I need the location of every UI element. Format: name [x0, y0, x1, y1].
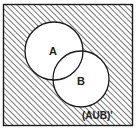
- set-a-label: A: [49, 45, 57, 57]
- venn-diagram: A B (AUB)': [0, 0, 138, 130]
- region-label: (AUB)': [82, 110, 113, 121]
- set-b-label: B: [77, 75, 85, 87]
